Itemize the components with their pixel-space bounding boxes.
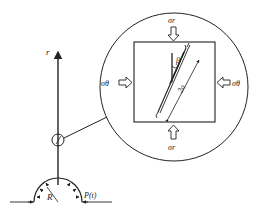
bottom-stress-arrow-icon <box>168 125 179 139</box>
radial-axis: r <box>46 47 58 185</box>
stress-element-square <box>134 42 215 122</box>
crack-length-label: 2a <box>175 83 187 94</box>
crack-stress-diagram: r σr σr σθ σθ <box>0 0 256 219</box>
radius-label: R <box>46 192 53 202</box>
right-stress-arrow-icon <box>217 77 230 88</box>
pressure-label: P(t) <box>83 191 97 200</box>
connector-line <box>64 117 107 138</box>
top-stress-label: σr <box>168 16 176 25</box>
detail-marker <box>52 117 107 146</box>
borehole: R P(t) <box>10 178 112 202</box>
bottom-stress-label: σr <box>168 143 176 152</box>
crack-icon <box>156 43 190 118</box>
top-stress-arrow-icon <box>168 27 179 41</box>
left-stress-arrow-icon <box>119 77 132 88</box>
r-axis-label: r <box>46 47 50 57</box>
left-stress-label: σθ <box>101 79 109 88</box>
right-stress-label: σθ <box>232 79 240 88</box>
magnified-view: σr σr σθ σθ β 2a <box>100 13 248 161</box>
pressure-arrows-icon <box>28 183 88 202</box>
angle-beta-label: β <box>175 56 180 65</box>
